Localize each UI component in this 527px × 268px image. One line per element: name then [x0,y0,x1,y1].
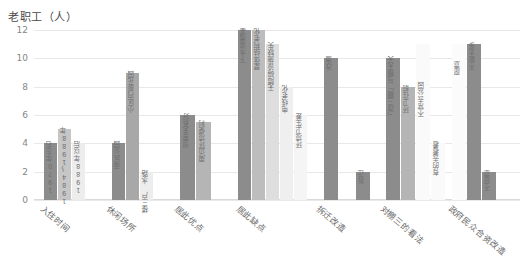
bar[interactable]: 小区内部花园 [126,73,139,201]
bar[interactable]: 下水道堵塞 [238,30,251,200]
bar-item[interactable]: 南民公园 [112,30,125,200]
bar[interactable]: 邻里关系好 [180,115,195,200]
bar-item[interactable]: 不常去公园 [416,30,430,200]
bar-item[interactable]: 环卫往前 [401,30,415,200]
bar-item[interactable]: 环境卫生差 [294,30,307,200]
x-axis-label: 入住时间 [38,202,73,234]
x-axis-label: 休闲场所 [104,202,139,234]
bar[interactable]: 环卫往前 [401,87,415,200]
plot-area: 0246810121970年左右1984～1988年1988年以后南民公园小区内… [34,30,520,200]
y-axis-tick: 12 [17,25,28,35]
bar-label: 有的去看看 [434,141,442,176]
bar-item[interactable]: 周边环境便利 [196,30,211,200]
bar-item[interactable]: 有的去看看 [431,30,445,200]
bar[interactable]: 无障碍设施缺失 [266,44,279,200]
bar-label: 环境卫生差 [297,113,305,148]
bar-label: 1970年左右 [47,141,55,194]
bar-label: 「改三棚」与棚天天 [389,56,397,119]
x-axis-label: 拆迁改造 [314,202,349,234]
bar-item[interactable]: 电线老化 [280,30,293,200]
y-axis-tick: 6 [22,110,28,120]
bar-label: 愿意 [455,61,463,75]
bar[interactable]: 有的去看看 [431,143,445,200]
y-axis-tick: 0 [22,195,28,205]
bar-item[interactable]: 拆迁 [356,30,370,200]
bar-label: 电线老化 [283,85,291,113]
bar-item[interactable]: 无障碍设施缺失 [266,30,279,200]
bar-group: 改造拆迁 [324,30,370,200]
bar[interactable]: 环境卫生差 [294,115,307,200]
bar[interactable]: 愿意 [452,44,466,200]
bar-item[interactable]: 小区内部花园 [126,30,139,200]
bar-item[interactable]: 楼三户 水路 [140,30,153,200]
bar[interactable]: 不常去公园 [416,44,430,200]
bar-label: 1988年以后 [75,141,83,194]
bar-label: 不能太多 [470,42,478,70]
bar-group: 下水道堵塞屋体结构老化无障碍设施缺失电线老化环境卫生差 [238,30,307,200]
y-axis-tick: 4 [22,138,28,148]
x-axis-label: 对棚三的看法 [378,202,427,246]
bar[interactable]: 不愿意 [482,172,496,200]
bar-label: 下水道堵塞 [241,28,249,63]
bar-item[interactable]: 1984～1988年 [58,30,71,200]
bar-label: 南民公园 [115,141,123,169]
gridline [34,200,520,201]
bar-label: 环卫往前 [404,85,412,113]
bar-item[interactable]: 不能太多 [467,30,481,200]
x-axis-label: 居此优点 [172,202,207,234]
x-axis-labels: 入住时间休闲场所居此优点居此缺点拆迁改造对棚三的看法政府民众合资改造 [34,202,520,266]
bar[interactable]: 不能太多 [467,44,481,200]
bar-item[interactable]: 下水道堵塞 [238,30,251,200]
bar-item[interactable]: 愿意 [452,30,466,200]
bar[interactable]: 屋体结构老化 [252,30,265,200]
bar[interactable]: 改造 [324,58,338,200]
bar-label: 拆迁 [359,170,367,184]
bar-label: 邻里关系好 [184,113,192,148]
bar-chart: 老职工（人） 0246810121970年左右1984～1988年1988年以后… [0,0,527,268]
x-axis-label: 居此缺点 [234,202,269,234]
bar[interactable]: 1970年左右 [44,143,57,200]
bar-label: 不愿意 [485,170,493,191]
bar-label: 无障碍设施缺失 [269,42,277,91]
bar-label: 小区内部花园 [129,71,137,113]
bar-label: 不常去公园 [419,82,427,117]
chart-title: 老职工（人） [8,8,77,24]
x-axis-label: 政府民众合资改造 [446,202,509,257]
bar-label: 周边环境便利 [200,120,208,162]
bar-item[interactable]: 「改三棚」与棚天天 [386,30,400,200]
bar-item[interactable]: 1988年以后 [72,30,85,200]
bar-label: 1984～1988年 [61,127,69,205]
bar[interactable]: 「改三棚」与棚天天 [386,58,400,200]
bar-item[interactable]: 屋体结构老化 [252,30,265,200]
bar-item[interactable]: 改造 [324,30,338,200]
bar[interactable]: 南民公园 [112,143,125,200]
bar[interactable]: 1984～1988年 [58,129,71,200]
bar-item[interactable]: 1970年左右 [44,30,57,200]
bar-label: 屋体结构老化 [255,28,263,70]
bar-item[interactable]: 不愿意 [482,30,496,200]
bar-group: 「改三棚」与棚天天环卫往前不常去公园有的去看看 [386,30,445,200]
bar[interactable]: 楼三户 水路 [140,172,153,200]
bar-group: 南民公园小区内部花园楼三户 水路 [112,30,153,200]
bar-group: 愿意不能太多不愿意 [452,30,496,200]
y-axis-tick: 2 [22,167,28,177]
y-axis-tick: 8 [22,82,28,92]
bar-label: 改造 [327,56,335,70]
bar[interactable]: 电线老化 [280,87,293,200]
y-axis-tick: 10 [17,53,28,63]
bar[interactable]: 1988年以后 [72,143,85,200]
bar-group: 邻里关系好周边环境便利 [180,30,211,200]
bar[interactable]: 拆迁 [356,172,370,200]
bar-group: 1970年左右1984～1988年1988年以后 [44,30,85,200]
bar[interactable]: 周边环境便利 [196,122,211,200]
bar-item[interactable]: 邻里关系好 [180,30,195,200]
